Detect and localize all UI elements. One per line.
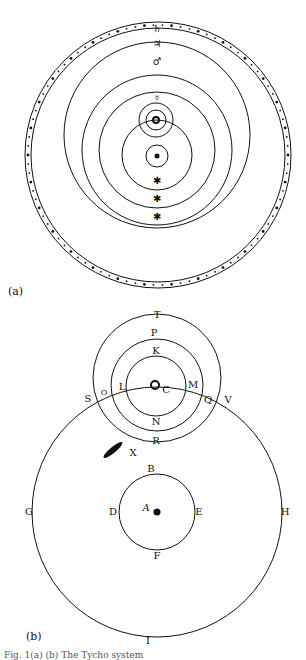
point-Q: Q (204, 394, 212, 405)
figure-b-diagram (32, 314, 282, 637)
point-C: C (162, 384, 170, 395)
figure-b-label: (b) (26, 630, 42, 643)
point-V: V (224, 394, 231, 405)
point-A: A (142, 502, 149, 513)
point-I: I (146, 635, 150, 646)
star-symbol-1: ✱ (153, 175, 161, 186)
point-E: E (195, 506, 202, 517)
point-K: K (152, 345, 159, 356)
point-B: B (147, 463, 154, 474)
point-N: N (152, 416, 161, 427)
point-O: O (101, 388, 108, 397)
point-X: X (129, 447, 136, 458)
star-symbol-3: ✱ (153, 211, 161, 222)
point-P: P (151, 327, 158, 338)
point-S: S (85, 393, 92, 404)
saturn-symbol: ♄ (153, 23, 162, 34)
point-M: M (188, 379, 198, 390)
figure-a-label: (a) (8, 285, 23, 298)
jupiter-symbol: ♃ (153, 38, 162, 49)
mercury-symbol: ☿ (155, 94, 159, 102)
point-D: D (109, 506, 117, 517)
mars-symbol: ♂ (153, 56, 162, 67)
point-F: F (154, 550, 161, 561)
caption-text: Fig. 1(a) (b) The Tycho system (4, 650, 143, 660)
point-R: R (152, 435, 160, 446)
point-H: H (281, 506, 290, 517)
star-symbol-2: ✱ (153, 193, 161, 204)
point-G: G (25, 506, 33, 517)
point-L: L (119, 381, 126, 392)
point-T: T (154, 309, 161, 320)
